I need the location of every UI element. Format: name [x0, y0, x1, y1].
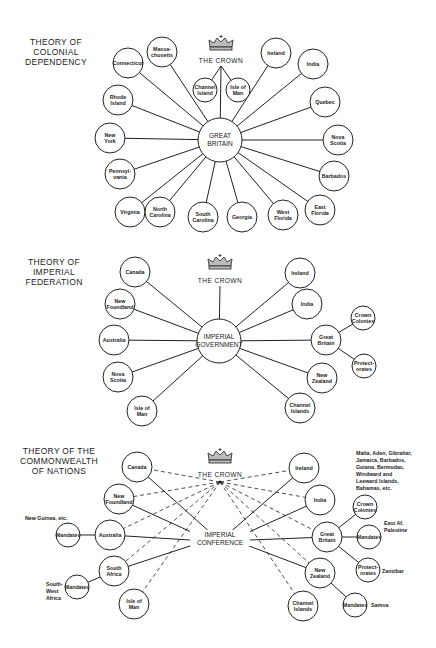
- svg-text:Africa: Africa: [46, 595, 61, 601]
- node-south-carolina: SouthCarolina: [188, 202, 218, 232]
- node-mandates-samoa: Mandates: [343, 593, 367, 617]
- node-isle-of-man: Isle ofMan: [226, 78, 250, 102]
- svg-text:GOVERNMENT: GOVERNMENT: [195, 341, 242, 348]
- node-mandates-new-guinea: Mandates: [56, 523, 80, 547]
- hub-label: GREAT: [209, 132, 231, 139]
- node-barbados: Barbados: [319, 161, 349, 191]
- svg-text:Canada: Canada: [125, 269, 144, 275]
- annotation-zanzibar: Zanzibar: [382, 568, 404, 574]
- node-new-zealand: NewZealand: [307, 363, 337, 393]
- node-canada: Canada: [120, 257, 150, 287]
- node-isle-of-man: Isle ofMan: [119, 589, 149, 619]
- node-australia: Australia: [99, 325, 129, 355]
- svg-text:Scotia: Scotia: [110, 377, 126, 383]
- annotation-new-guinea: New Guinea, etc.: [25, 515, 68, 521]
- svg-text:India: India: [314, 497, 326, 503]
- svg-text:Zealand: Zealand: [310, 573, 330, 579]
- svg-text:India: India: [301, 301, 313, 307]
- crown-icon: [208, 448, 232, 463]
- node-rhode-island: RhodeIsland: [103, 85, 133, 115]
- node-connecticut: Connecticut: [113, 48, 144, 78]
- annotation-samoa: Samoa: [371, 602, 388, 608]
- node-india: India: [292, 289, 322, 319]
- node-ireland: Ireland: [289, 453, 319, 483]
- svg-text:South-: South-: [46, 581, 63, 587]
- svg-text:IMPERIAL: IMPERIAL: [204, 333, 235, 340]
- svg-text:India: India: [307, 61, 319, 67]
- node-crown-colonies: CrownColonies: [353, 495, 377, 519]
- node-great-britain: GreatBritain: [312, 522, 342, 552]
- svg-text:Foundland: Foundland: [106, 304, 133, 310]
- svg-text:Jamaica, Barbados,: Jamaica, Barbados,: [356, 457, 406, 463]
- svg-text:orates: orates: [356, 366, 372, 372]
- crown-label: THE CROWN: [198, 277, 242, 284]
- node-australia: Australia: [95, 520, 125, 550]
- svg-text:Island: Island: [197, 90, 212, 96]
- svg-text:Mandates: Mandates: [65, 584, 89, 590]
- annotation-south-west-africa: South- West Africa: [46, 581, 63, 601]
- annotation-crown-colonies-list: Malta, Aden, Gibraltar, Jamaica, Barbado…: [356, 450, 412, 491]
- hub-label: IMPERIAL: [205, 531, 236, 538]
- svg-text:Palestine: Palestine: [384, 527, 407, 533]
- node-ireland: Ireland: [285, 258, 315, 288]
- node-virginia: Virginia: [115, 197, 145, 227]
- crown-icon: [208, 254, 232, 269]
- node-pennsylvania: Pennsyl-vania: [105, 159, 135, 189]
- node-canada: Canada: [122, 452, 152, 482]
- svg-text:Zealand: Zealand: [312, 378, 332, 384]
- node-new-zealand: NewZealand: [305, 558, 335, 588]
- diagram-canvas: THE CROWN GREAT BRITAIN Massa-chusetts C…: [0, 0, 436, 648]
- node-east-florida: EastFlorida: [305, 195, 335, 225]
- svg-text:Man: Man: [129, 604, 140, 610]
- node-new-foundland: NewFoundland: [104, 484, 134, 514]
- svg-text:Colonies: Colonies: [352, 318, 374, 324]
- node-south-africa: SouthAfrica: [99, 556, 129, 586]
- svg-text:Islands: Islands: [291, 408, 309, 414]
- node-channel-islands: ChannelIslands: [285, 393, 315, 423]
- node-massachusetts: Massa-chusetts: [147, 37, 177, 67]
- node-north-carolina: NorthCarolina: [145, 197, 175, 227]
- hub-label: CONFERENCE: [197, 539, 244, 546]
- svg-text:Malta, Aden, Gibraltar,: Malta, Aden, Gibraltar,: [356, 450, 412, 456]
- svg-text:vania: vania: [113, 174, 127, 180]
- svg-text:Australia: Australia: [99, 532, 122, 538]
- svg-text:Africa: Africa: [106, 571, 121, 577]
- node-channel-islands: ChannelIslands: [288, 591, 318, 621]
- node-quebec: Quebec: [310, 87, 340, 117]
- svg-text:Foundland: Foundland: [105, 499, 132, 505]
- svg-text:Connecticut: Connecticut: [113, 60, 144, 66]
- node-crown-colonies: CrownColonies: [351, 306, 375, 330]
- svg-text:Barbados: Barbados: [322, 173, 346, 179]
- svg-text:Virginia: Virginia: [120, 209, 139, 215]
- svg-text:Scotia: Scotia: [330, 140, 346, 146]
- node-india: India: [298, 49, 328, 79]
- node-georgia: Georgia: [227, 202, 257, 232]
- node-isle-of-man: Isle ofMan: [127, 396, 157, 426]
- svg-text:Windward and: Windward and: [356, 471, 392, 477]
- svg-text:Florida: Florida: [311, 210, 329, 216]
- node-channel-island: ChannelIsland: [193, 78, 217, 102]
- svg-text:Carolina: Carolina: [149, 212, 170, 218]
- crown-icon: [209, 35, 233, 50]
- hub-label: BRITAIN: [207, 140, 233, 147]
- node-mandates-east-africa: Mandates: [357, 525, 381, 549]
- svg-text:Man: Man: [233, 90, 244, 96]
- node-nova-scotia: NovaScotia: [323, 125, 353, 155]
- svg-text:Mandates: Mandates: [357, 534, 381, 540]
- annotation-east-africa: East Af. Palestine: [384, 520, 407, 533]
- svg-text:Island: Island: [110, 100, 125, 106]
- node-new-york: NewYork: [95, 123, 125, 153]
- svg-text:Mandates: Mandates: [343, 602, 367, 608]
- node-great-britain: GreatBritain: [311, 325, 341, 355]
- crown-label: THE CROWN: [199, 57, 243, 64]
- svg-text:orates: orates: [360, 570, 376, 576]
- svg-text:Britain: Britain: [318, 340, 335, 346]
- svg-text:Quebec: Quebec: [315, 99, 334, 105]
- svg-text:Australia: Australia: [103, 337, 126, 343]
- node-nova-scotia: NovaScotia: [103, 362, 133, 392]
- svg-text:Canada: Canada: [127, 464, 146, 470]
- svg-text:Florida: Florida: [274, 215, 292, 221]
- svg-text:Bahamas, etc.: Bahamas, etc.: [356, 485, 392, 491]
- svg-text:York: York: [104, 138, 115, 144]
- svg-text:Ireland: Ireland: [295, 465, 312, 471]
